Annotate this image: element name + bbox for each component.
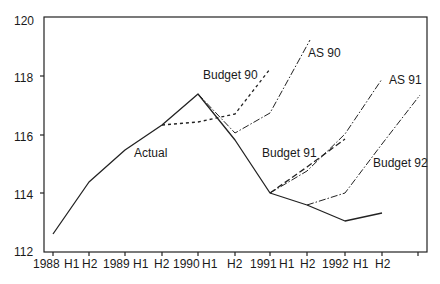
x-tick-h2: H2 <box>375 257 391 271</box>
x-tick-1990: 1990 <box>173 257 200 271</box>
label-budget-91: Budget 91 <box>262 146 317 160</box>
y-tick-114: 114 <box>14 188 33 202</box>
x-tick-h2: H2 <box>227 257 243 271</box>
label-budget-90: Budget 90 <box>203 68 258 82</box>
x-tick-h1: H1 <box>133 257 149 271</box>
series-as-90 <box>198 40 310 133</box>
x-axis <box>53 252 418 256</box>
x-tick-h1: H1 <box>353 257 369 271</box>
label-as-91: AS 91 <box>389 73 422 87</box>
x-tick-h1: H1 <box>279 257 295 271</box>
x-tick-1989: 1989 <box>103 257 130 271</box>
x-tick-h2: H2 <box>154 257 170 271</box>
y-tick-labels: 120 118 116 114 112 <box>14 14 34 259</box>
x-tick-labels: 1988 H1 H2 1989 H1 H2 1990 H1 H2 1991 H1… <box>33 257 391 271</box>
y-tick-120: 120 <box>14 14 34 28</box>
plot-frame <box>44 17 427 252</box>
label-actual: Actual <box>134 146 167 160</box>
line-chart: 120 118 116 114 112 1988 H1 H2 1989 H1 H… <box>0 0 440 284</box>
x-tick-h1: H1 <box>64 257 80 271</box>
x-tick-1991: 1991 <box>250 257 277 271</box>
x-tick-h2: H2 <box>300 257 316 271</box>
series-as-91 <box>270 79 382 193</box>
x-tick-1992: 1992 <box>322 257 349 271</box>
label-as-90: AS 90 <box>308 46 341 60</box>
x-tick-1988: 1988 <box>33 257 60 271</box>
series-budget-92 <box>307 95 420 205</box>
x-tick-h2: H2 <box>82 257 98 271</box>
y-tick-116: 116 <box>14 130 33 144</box>
y-tick-112: 112 <box>14 245 33 259</box>
x-tick-h1: H1 <box>202 257 218 271</box>
y-tick-118: 118 <box>14 71 33 85</box>
label-budget-92: Budget 92 <box>373 156 428 170</box>
